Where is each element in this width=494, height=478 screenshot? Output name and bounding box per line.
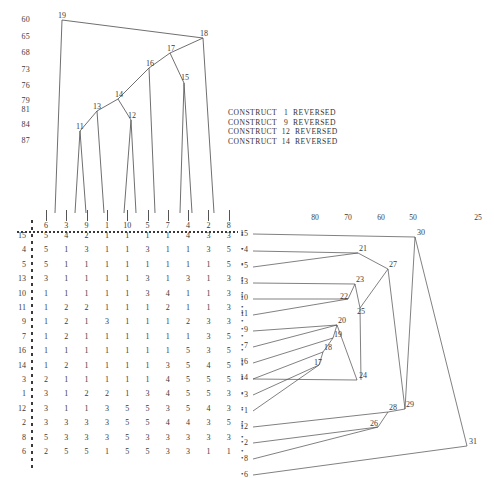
matrix-column-header: 8 — [223, 222, 235, 230]
matrix-cell: 1 — [121, 275, 133, 283]
matrix-cell: 5 — [81, 448, 93, 456]
matrix-row-header: 11 — [8, 304, 26, 312]
linkage-row-dot: • — [241, 294, 243, 301]
linkage-row-dot: • — [241, 391, 243, 398]
matrix-cell: 2 — [60, 318, 72, 326]
matrix-cell: 1 — [142, 318, 154, 326]
dendro-node-13: 13 — [93, 103, 101, 111]
matrix-cell: 1 — [101, 347, 113, 355]
matrix-cell: 3 — [162, 434, 174, 442]
matrix-cell: 5 — [223, 246, 235, 254]
matrix-cell: 3 — [81, 419, 93, 427]
construct-line-9: CONSTRUCT 9 REVERSED — [228, 118, 338, 128]
matrix-cell: 1 — [202, 290, 214, 298]
matrix-cell: 3 — [223, 304, 235, 312]
matrix-cell: 1 — [101, 362, 113, 370]
matrix-cell: 4 — [60, 232, 72, 240]
matrix-cell: 3 — [162, 448, 174, 456]
matrix-cell: 1 — [142, 376, 154, 384]
matrix-cell: 3 — [223, 275, 235, 283]
matrix-cell: 1 — [60, 405, 72, 413]
dendro-scale-84: 84 — [8, 121, 30, 129]
matrix-cell: 1 — [162, 261, 174, 269]
matrix-cell: 4 — [162, 419, 174, 427]
matrix-cell: 4 — [202, 405, 214, 413]
matrix-cell: 1 — [142, 347, 154, 355]
matrix-cell: 1 — [81, 333, 93, 341]
matrix-cell: 1 — [142, 333, 154, 341]
matrix-cell: 1 — [60, 290, 72, 298]
matrix-cell: 5 — [142, 405, 154, 413]
matrix-cell: 1 — [142, 232, 154, 240]
matrix-cell: 3 — [182, 434, 194, 442]
matrix-cell: 1 — [60, 261, 72, 269]
matrix-cell: 1 — [101, 261, 113, 269]
matrix-cell: 1 — [60, 246, 72, 254]
matrix-cell: 4 — [202, 362, 214, 370]
matrix-column-header: 10 — [121, 222, 133, 230]
matrix-cell: 3 — [202, 232, 214, 240]
dendro-node-12: 12 — [128, 112, 136, 120]
matrix-cell: 1 — [121, 261, 133, 269]
linkage-node-label: 24 — [359, 372, 367, 380]
matrix-cell: 5 — [121, 434, 133, 442]
linkage-row-dot: • — [241, 423, 243, 430]
matrix-column-tick — [188, 210, 189, 221]
matrix-cell: 2 — [162, 304, 174, 312]
matrix-cell: 3 — [223, 290, 235, 298]
linkage-node-label: 31 — [469, 438, 477, 446]
matrix-row-header: 7 — [8, 333, 26, 341]
matrix-cell: 1 — [81, 275, 93, 283]
matrix-cell: 3 — [182, 448, 194, 456]
matrix-cell: 1 — [121, 232, 133, 240]
linkage-row-dot: • — [241, 455, 243, 462]
linkage-node-label: 18 — [324, 344, 332, 352]
matrix-cell: 1 — [162, 246, 174, 254]
matrix-cell: 1 — [60, 376, 72, 384]
matrix-row-header: 13 — [8, 275, 26, 283]
linkage-scale-label: 80 — [307, 214, 323, 222]
matrix-cell: 5 — [223, 376, 235, 384]
matrix-column-tick — [127, 210, 128, 221]
matrix-cell: 1 — [81, 362, 93, 370]
matrix-cell: 1 — [40, 318, 52, 326]
matrix-row-header: 2 — [8, 419, 26, 427]
dendro-scale-60: 60 — [8, 16, 30, 24]
linkage-node-label: 27 — [389, 261, 397, 269]
matrix-cell: 1 — [142, 362, 154, 370]
linkage-tree — [245, 205, 494, 478]
linkage-row-dot: • — [241, 326, 243, 333]
matrix-cell: 3 — [101, 318, 113, 326]
matrix-cell: 3 — [142, 290, 154, 298]
matrix-cell: 2 — [81, 390, 93, 398]
matrix-cell: 1 — [60, 347, 72, 355]
matrix-column-tick — [46, 210, 47, 221]
linkage-node-label: 26 — [370, 420, 378, 428]
matrix-cell: 3 — [223, 232, 235, 240]
matrix-cell: 1 — [162, 347, 174, 355]
construct-line-1: CONSTRUCT 1 REVERSED — [228, 108, 338, 118]
matrix-cell: 3 — [40, 390, 52, 398]
linkage-row-dot: • — [241, 342, 243, 349]
linkage-node-label: 21 — [359, 245, 367, 253]
matrix-cell: 5 — [182, 390, 194, 398]
dendro-scale-73: 73 — [8, 66, 30, 74]
matrix-cell: 5 — [40, 246, 52, 254]
matrix-cell: 1 — [162, 318, 174, 326]
matrix-cell: 1 — [223, 448, 235, 456]
matrix-cell: 2 — [60, 362, 72, 370]
construct-line-12: CONSTRUCT 12 REVERSED — [228, 127, 338, 137]
matrix-cell: 3 — [81, 434, 93, 442]
matrix-cell: 2 — [60, 333, 72, 341]
linkage-row-dot: • — [241, 262, 243, 269]
matrix-row-header: 1 — [8, 390, 26, 398]
linkage-scale-label: 60 — [373, 214, 389, 222]
dendro-scale-79: 79 — [8, 97, 30, 105]
matrix-cell: 4 — [162, 390, 174, 398]
dendro-node-15: 15 — [181, 74, 189, 82]
matrix-row-header: 6 — [8, 448, 26, 456]
matrix-column-header: 1 — [101, 222, 113, 230]
matrix-cell: 1 — [182, 333, 194, 341]
matrix-cell: 1 — [121, 290, 133, 298]
matrix-column-header: 3 — [60, 222, 72, 230]
